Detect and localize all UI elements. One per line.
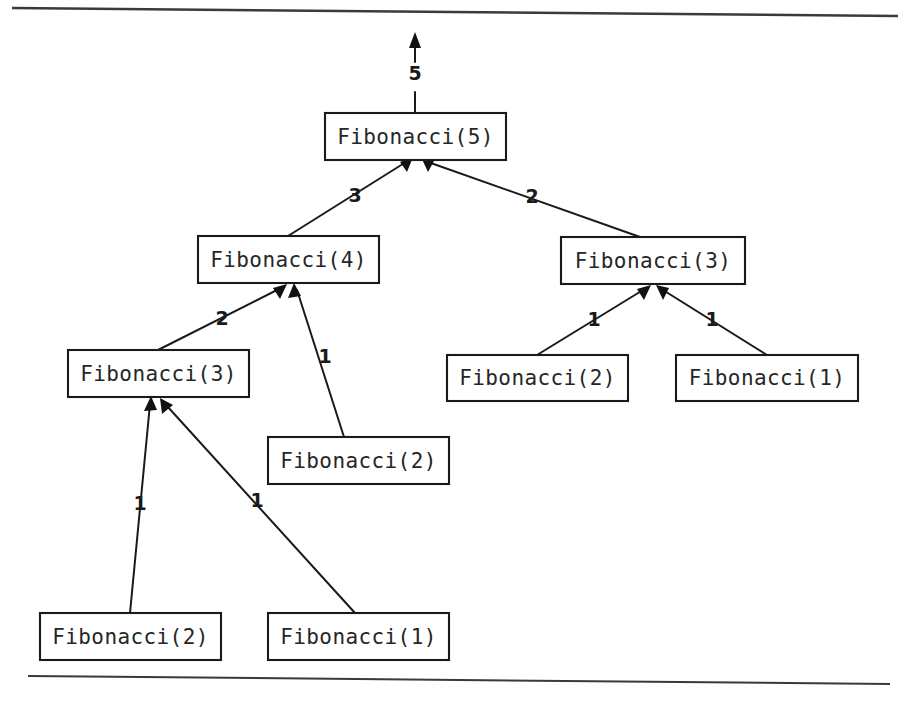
edge-fib4-to-fib5	[288, 162, 406, 236]
edge-label-fib3left-fib4: 2	[215, 307, 228, 329]
node-fib1-bottom: Fibonacci(1)	[268, 613, 449, 660]
node-label: Fibonacci(2)	[52, 625, 209, 649]
edge-label-fib3right-fib5: 2	[525, 185, 538, 207]
node-label: Fibonacci(2)	[280, 449, 437, 473]
node-label: Fibonacci(1)	[280, 625, 437, 649]
node-label: Fibonacci(2)	[459, 366, 616, 390]
edge-label-fib1bot-fib3left: 1	[250, 489, 263, 511]
node-fib4: Fibonacci(4)	[198, 236, 379, 283]
node-fib2-bottom: Fibonacci(2)	[40, 613, 221, 660]
node-fib3-right: Fibonacci(3)	[561, 237, 745, 284]
node-label: Fibonacci(3)	[80, 362, 237, 386]
edge-label-fib1r-fib3right: 1	[705, 308, 718, 330]
node-label: Fibonacci(5)	[337, 125, 494, 149]
node-label: Fibonacci(1)	[689, 366, 846, 390]
edge-fib2mid-to-fib4-arrow	[288, 283, 301, 298]
edge-label-fib2mid-fib4: 1	[318, 345, 331, 367]
edge-label-fib2r-fib3right: 1	[587, 308, 600, 330]
result-arrow-head	[409, 32, 421, 48]
edge-fib2bot-to-fib3left-arrow	[144, 396, 157, 411]
node-fib2-middle: Fibonacci(2)	[268, 437, 449, 484]
bottom-rule	[28, 676, 890, 684]
node-label: Fibonacci(3)	[575, 249, 732, 273]
top-rule	[12, 8, 898, 16]
recursion-tree-figure: 5 3 2 2 1 1 1 1 1 Fibonacci(5)	[0, 0, 906, 703]
node-label: Fibonacci(4)	[210, 248, 367, 272]
figure-page: 5 3 2 2 1 1 1 1 1 Fibonacci(5)	[0, 0, 906, 703]
node-fib1-right: Fibonacci(1)	[676, 355, 858, 401]
node-fib5: Fibonacci(5)	[325, 113, 506, 160]
edge-label-fib2bot-fib3left: 1	[133, 492, 146, 514]
edge-label-fib4-fib5: 3	[348, 184, 361, 206]
result-value-label: 5	[408, 62, 421, 84]
node-fib2-right: Fibonacci(2)	[447, 355, 628, 401]
node-fib3-left: Fibonacci(3)	[68, 350, 249, 397]
